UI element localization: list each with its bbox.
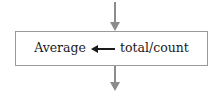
incoming-arrow-stem [114,2,116,23]
incoming-flow-arrow-icon [110,2,120,32]
process-box: Average total/count [15,31,208,66]
incoming-arrow-head [110,22,120,31]
assignment-arrow-stem [96,48,115,50]
outgoing-arrow-stem [114,66,116,83]
assignment-arrow-left-icon [91,44,115,53]
outgoing-flow-arrow-icon [110,66,120,96]
assignment-statement: Average total/count [34,42,189,55]
assignment-expression-label: total/count [120,42,189,55]
assignment-target-label: Average [34,42,86,55]
outgoing-arrow-head [110,82,120,91]
flowchart-canvas: Average total/count [0,0,221,96]
